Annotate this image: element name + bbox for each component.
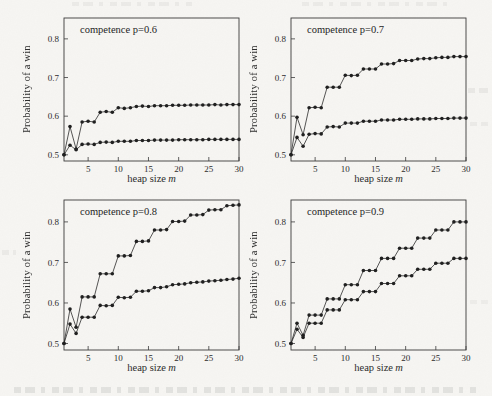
data-point	[219, 279, 223, 283]
data-point	[428, 117, 432, 121]
data-point	[428, 57, 432, 61]
data-point	[374, 269, 378, 273]
data-point	[189, 281, 193, 285]
data-point	[135, 240, 139, 244]
y-tick-label: 0.7	[275, 258, 287, 268]
data-point	[386, 282, 390, 286]
data-point	[307, 321, 311, 325]
data-point	[295, 328, 299, 332]
data-point	[392, 282, 396, 286]
data-point	[458, 257, 462, 261]
data-point	[159, 104, 163, 108]
data-point	[123, 140, 127, 144]
data-point	[452, 116, 456, 120]
data-point	[153, 286, 157, 290]
data-point	[289, 342, 293, 346]
data-point	[464, 55, 468, 59]
data-point	[111, 141, 115, 145]
data-point	[177, 138, 181, 142]
plot-annotation: competence p=0.7	[307, 24, 384, 35]
data-point	[368, 269, 372, 273]
x-axis-label-variable: m	[168, 362, 176, 373]
data-point	[428, 268, 432, 272]
data-point	[231, 277, 235, 281]
data-point	[386, 118, 390, 122]
data-point	[392, 62, 396, 66]
data-point	[231, 138, 235, 142]
data-point	[416, 57, 420, 61]
data-point	[98, 111, 102, 115]
data-point	[458, 55, 462, 59]
data-point	[189, 138, 193, 142]
data-point	[159, 228, 163, 232]
data-point	[153, 104, 157, 108]
data-point	[225, 204, 229, 208]
data-point	[171, 138, 175, 142]
plot-frame	[291, 18, 466, 161]
data-point	[153, 138, 157, 142]
data-point	[404, 59, 408, 63]
plot-annotation: competence p=0.8	[80, 206, 157, 217]
data-point	[434, 228, 438, 232]
data-point	[74, 148, 78, 152]
data-point	[307, 133, 311, 137]
data-point	[440, 261, 444, 265]
y-tick-label: 0.5	[275, 150, 287, 160]
data-point	[111, 304, 115, 308]
data-point	[201, 138, 205, 142]
data-point	[177, 283, 181, 287]
data-point	[404, 246, 408, 250]
data-point	[80, 120, 84, 124]
data-point	[117, 106, 121, 110]
x-axis-label: heap size m	[64, 173, 239, 184]
scan-bleedthrough-mark	[470, 300, 488, 304]
data-point	[452, 257, 456, 261]
data-point	[295, 136, 299, 140]
y-tick-label: 0.7	[48, 258, 60, 268]
data-point	[398, 274, 402, 278]
x-axis-label-text: heap size	[354, 173, 393, 184]
data-point	[350, 121, 354, 125]
data-point	[80, 315, 84, 319]
data-point	[356, 298, 360, 302]
data-point	[386, 62, 390, 66]
data-point	[464, 257, 468, 261]
data-point	[183, 138, 187, 142]
data-point	[338, 125, 342, 129]
y-tick-label: 0.5	[275, 339, 287, 349]
data-point	[464, 116, 468, 120]
data-point	[319, 313, 323, 317]
data-point	[464, 220, 468, 224]
data-point	[440, 56, 444, 60]
data-point	[213, 208, 217, 212]
data-point	[416, 117, 420, 121]
data-point	[171, 220, 175, 224]
data-point	[452, 220, 456, 224]
series-line-upper-curve	[64, 105, 239, 155]
data-point	[404, 274, 408, 278]
data-point	[86, 295, 90, 299]
data-point	[153, 228, 157, 232]
data-point	[141, 139, 145, 143]
data-point	[398, 118, 402, 122]
data-point	[338, 85, 342, 89]
scanned-figure-page: Probability of a win 0.50.60.70.85101520…	[0, 0, 492, 396]
data-point	[422, 268, 426, 272]
data-point	[325, 125, 329, 129]
data-point	[98, 141, 102, 145]
data-point	[213, 138, 217, 142]
y-tick-label: 0.6	[48, 111, 60, 121]
chart-competence-p0.7: Probability of a win 0.50.60.70.85101520…	[246, 0, 492, 198]
data-point	[356, 121, 360, 125]
data-point	[135, 289, 139, 293]
data-point	[356, 73, 360, 77]
data-point	[68, 125, 72, 129]
data-point	[374, 290, 378, 294]
data-point	[331, 308, 335, 312]
scan-bleedthrough-mark	[470, 122, 488, 126]
data-point	[331, 85, 335, 89]
data-point	[183, 282, 187, 286]
data-point	[374, 67, 378, 71]
data-point	[141, 104, 145, 108]
data-point	[68, 322, 72, 326]
